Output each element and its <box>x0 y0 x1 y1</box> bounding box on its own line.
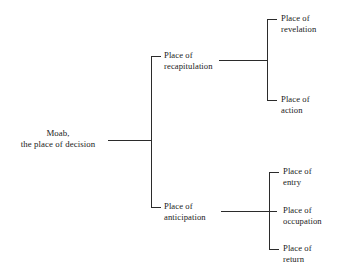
node-revelation-line1: Place of <box>281 13 316 24</box>
node-anticipation: Place of anticipation <box>164 201 206 222</box>
node-anticipation-line2: anticipation <box>164 212 206 223</box>
node-entry-line2: entry <box>283 177 312 188</box>
node-return-line1: Place of <box>283 243 312 254</box>
node-action-line1: Place of <box>281 94 310 105</box>
node-occupation-line1: Place of <box>283 205 322 216</box>
node-entry-line1: Place of <box>283 166 312 177</box>
node-occupation-line2: occupation <box>283 216 322 227</box>
node-action-line2: action <box>281 105 310 116</box>
node-root: Moab, the place of decision <box>8 128 108 150</box>
node-return: Place of return <box>283 243 312 264</box>
node-root-line1: Moab, <box>8 128 108 139</box>
node-root-line2: the place of decision <box>8 139 108 150</box>
node-occupation: Place of occupation <box>283 205 322 226</box>
node-revelation-line2: revelation <box>281 24 316 35</box>
node-anticipation-line1: Place of <box>164 201 206 212</box>
node-recapitulation-line2: recapitulation <box>164 61 213 72</box>
tree-diagram: Moab, the place of decision Place of rec… <box>0 0 348 279</box>
node-return-line2: return <box>283 254 312 265</box>
node-entry: Place of entry <box>283 166 312 187</box>
node-revelation: Place of revelation <box>281 13 316 34</box>
node-action: Place of action <box>281 94 310 115</box>
node-recapitulation: Place of recapitulation <box>164 50 213 71</box>
node-recapitulation-line1: Place of <box>164 50 213 61</box>
